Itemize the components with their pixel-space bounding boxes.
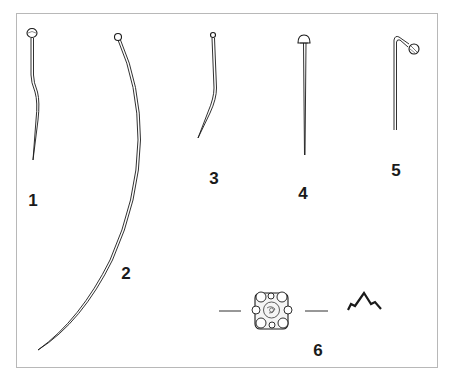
figure-caption (30, 374, 330, 384)
pin-2-drawing (38, 34, 141, 351)
pin-1-drawing (27, 29, 39, 161)
label-object-5: 5 (391, 162, 400, 179)
label-object-6: 6 (313, 342, 322, 359)
label-object-4: 4 (298, 185, 307, 202)
label-object-1: 1 (28, 192, 37, 209)
illustration-canvas (0, 0, 456, 384)
label-object-3: 3 (209, 170, 218, 187)
pin-3-drawing (198, 33, 217, 139)
pin-5-drawing (394, 36, 419, 130)
label-object-2: 2 (121, 265, 130, 282)
pin-4-drawing (298, 35, 310, 155)
ornament-6-drawing (219, 292, 328, 329)
ornament-6-profile-drawing (348, 293, 381, 310)
